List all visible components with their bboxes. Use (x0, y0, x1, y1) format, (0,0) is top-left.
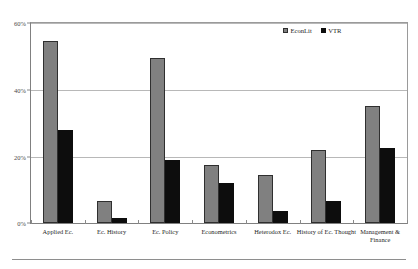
bar-group (97, 23, 127, 223)
y-tick-label-60: 60% (14, 20, 26, 27)
square-marker-icon (321, 28, 326, 33)
legend-item-econlit[interactable]: EconLit (283, 27, 312, 34)
bar-group (311, 23, 341, 223)
bar-series-container (31, 23, 407, 223)
x-tick-mark (85, 220, 86, 224)
footer-divider (12, 259, 406, 260)
bar-vtr[interactable] (326, 201, 341, 223)
y-tick-mark-40 (27, 90, 30, 91)
bar-econlit[interactable] (43, 41, 58, 223)
bar-group (365, 23, 395, 223)
y-axis: 60% 40% 20% 0% (0, 22, 30, 224)
x-axis-label: Management & Finance (345, 228, 415, 244)
legend-label-econlit: EconLit (291, 27, 312, 34)
y-tick-mark-0 (27, 223, 30, 224)
bar-group (150, 23, 180, 223)
x-tick-mark (353, 220, 354, 224)
y-tick-label-0: 0% (17, 220, 26, 227)
x-tick-mark (138, 220, 139, 224)
x-axis-labels: Applied Ec.Ec. HistoryEc. PolicyEconomet… (31, 228, 407, 252)
chart-screenshot: 60% 40% 20% 0% Applied Ec.Ec. HistoryEc.… (0, 0, 418, 269)
y-tick-label-20: 20% (14, 154, 26, 161)
y-tick-mark-20 (27, 157, 30, 158)
x-tick-mark (31, 220, 32, 224)
x-tick-mark (407, 220, 408, 224)
bar-econlit[interactable] (97, 201, 112, 223)
y-tick-label-40: 40% (14, 87, 26, 94)
bar-vtr[interactable] (58, 130, 73, 223)
bar-vtr[interactable] (112, 218, 127, 223)
bar-group (258, 23, 288, 223)
bar-econlit[interactable] (365, 106, 380, 223)
y-tick-mark-60 (27, 23, 30, 24)
x-tick-mark (192, 220, 193, 224)
legend-item-vtr[interactable]: VTR (321, 27, 342, 34)
x-tick-mark (300, 220, 301, 224)
chart-legend: EconLit VTR (283, 27, 341, 34)
bar-econlit[interactable] (311, 150, 326, 223)
legend-label-vtr: VTR (328, 27, 341, 34)
bar-econlit[interactable] (258, 175, 273, 223)
bar-vtr[interactable] (165, 160, 180, 223)
bar-econlit[interactable] (150, 58, 165, 223)
bar-vtr[interactable] (273, 211, 288, 223)
x-tick-mark (246, 220, 247, 224)
bar-group (204, 23, 234, 223)
bar-group (43, 23, 73, 223)
bar-vtr[interactable] (380, 148, 395, 223)
square-marker-icon (283, 28, 288, 33)
bar-econlit[interactable] (204, 165, 219, 223)
bar-vtr[interactable] (219, 183, 234, 223)
